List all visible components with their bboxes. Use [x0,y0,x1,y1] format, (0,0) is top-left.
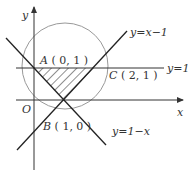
point-a-label: A ( 0, 1 ) [40,55,88,66]
line-y-equals-1-minus-x-label: y=1−x [112,126,150,137]
shaded-triangle [34,68,94,100]
y-axis-label: y [22,10,28,21]
point-b-label: B ( 1, 0 ) [43,121,91,132]
point-c-label: C ( 2, 1 ) [109,70,158,81]
x-axis-label: x [177,107,183,118]
coordinate-diagram: y x O A ( 0, 1 ) B ( 1, 0 ) C ( 2, 1 ) y… [0,0,190,179]
origin-label: O [22,104,31,115]
line-y-equals-1-label: y=1 [167,63,189,74]
line-y-equals-x-minus-1-label: y=x−1 [130,27,168,38]
